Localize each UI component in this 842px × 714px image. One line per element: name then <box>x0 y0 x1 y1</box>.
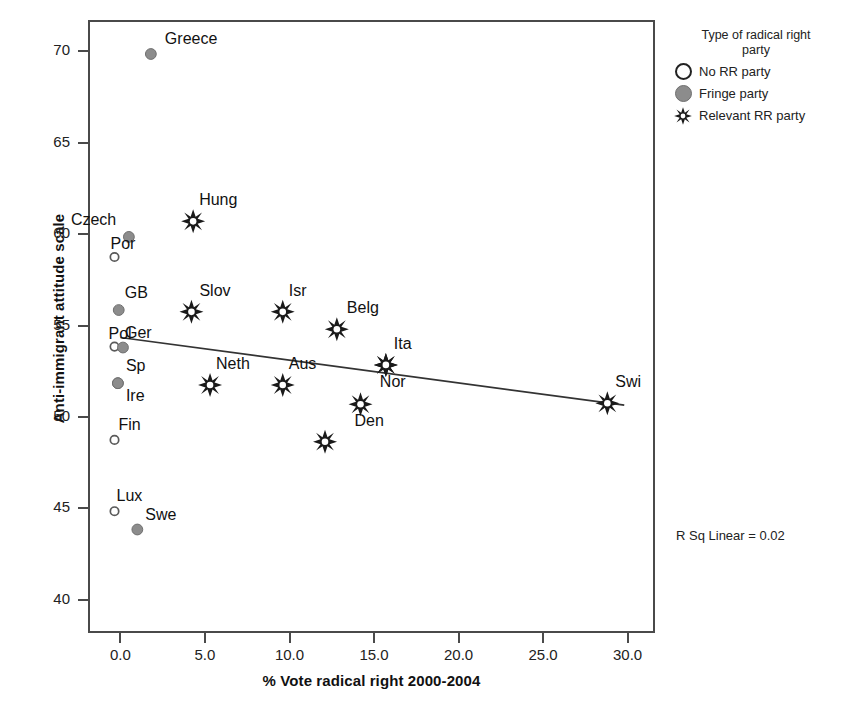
filled-circle-marker <box>113 305 124 316</box>
x-axis-title: % Vote radical right 2000-2004 <box>88 672 655 689</box>
x-tick-label: 0.0 <box>96 646 144 663</box>
filled-circle-marker <box>132 524 143 535</box>
legend: Type of radical right party No RR party … <box>672 28 840 127</box>
point-label: Neth <box>216 355 250 373</box>
x-tick-label: 15.0 <box>350 646 398 663</box>
x-tick-label: 5.0 <box>181 646 229 663</box>
legend-item-fringe-party[interactable]: Fringe party <box>672 83 840 104</box>
data-markers <box>110 49 619 535</box>
legend-label-fringe-party: Fringe party <box>699 86 768 101</box>
x-tick-mark <box>204 632 206 643</box>
star-marker <box>313 430 337 454</box>
legend-title-line2: party <box>672 43 840 58</box>
point-label: Lux <box>117 487 143 505</box>
point-label: Czech <box>71 211 116 229</box>
point-label: Swi <box>615 373 641 391</box>
open-circle-marker <box>110 253 118 261</box>
filled-circle-marker <box>118 342 129 353</box>
point-label: Aus <box>289 355 317 373</box>
x-tick-mark <box>119 632 121 643</box>
point-label: Ita <box>394 335 412 353</box>
legend-title: Type of radical right party <box>672 28 840 58</box>
star-marker <box>325 317 349 341</box>
y-tick-label: 45 <box>30 498 70 515</box>
filled-circle-marker <box>145 49 156 60</box>
plot-area: PorPolFinLuxGreeceCzechGBGerSpIreSweHung… <box>88 20 655 633</box>
star-marker <box>198 373 222 397</box>
point-label: Nor <box>380 373 406 391</box>
x-tick-label: 10.0 <box>266 646 314 663</box>
legend-label-relevant-rr-party: Relevant RR party <box>699 108 805 123</box>
point-label: Swe <box>145 506 176 524</box>
x-tick-mark <box>289 632 291 643</box>
point-label: Sp <box>126 357 146 375</box>
x-tick-mark <box>458 632 460 643</box>
legend-title-line1: Type of radical right <box>672 28 840 43</box>
open-circle-icon <box>672 61 694 82</box>
point-label: Greece <box>165 30 217 48</box>
legend-item-no-rr-party[interactable]: No RR party <box>672 61 840 82</box>
plot-canvas <box>90 22 653 631</box>
point-label: Isr <box>289 282 307 300</box>
point-label: Slov <box>199 282 230 300</box>
star-icon <box>672 105 694 126</box>
legend-label-no-rr-party: No RR party <box>699 64 771 79</box>
star-marker <box>271 300 295 324</box>
point-label: Fin <box>119 416 141 434</box>
x-tick-mark <box>373 632 375 643</box>
y-tick-label: 55 <box>30 316 70 333</box>
star-marker <box>271 373 295 397</box>
r-squared-annotation: R Sq Linear = 0.02 <box>676 528 785 543</box>
star-marker <box>179 300 203 324</box>
x-tick-mark <box>542 632 544 643</box>
open-circle-marker <box>110 436 118 444</box>
point-label: Belg <box>347 299 379 317</box>
filled-circle-marker <box>112 378 123 389</box>
y-tick-label: 50 <box>30 407 70 424</box>
y-tick-label: 65 <box>30 133 70 150</box>
x-tick-label: 25.0 <box>519 646 567 663</box>
star-marker <box>595 391 619 415</box>
y-tick-label: 70 <box>30 41 70 58</box>
x-tick-label: 20.0 <box>435 646 483 663</box>
point-label: Den <box>355 412 384 430</box>
point-label: Por <box>111 235 136 253</box>
y-tick-label: 60 <box>30 224 70 241</box>
star-marker <box>181 209 205 233</box>
x-tick-mark <box>627 632 629 643</box>
y-tick-label: 40 <box>30 590 70 607</box>
filled-circle-icon <box>672 83 694 104</box>
x-tick-label: 30.0 <box>604 646 652 663</box>
point-label: Ger <box>125 324 152 342</box>
open-circle-marker <box>110 507 118 515</box>
point-label: Ire <box>126 387 145 405</box>
point-label: GB <box>125 284 148 302</box>
trendline <box>120 337 624 405</box>
legend-item-relevant-rr-party[interactable]: Relevant RR party <box>672 105 840 126</box>
scatter-plot-figure: Anti-immigrant attitude scale % Vote rad… <box>0 0 842 714</box>
point-label: Hung <box>199 191 237 209</box>
